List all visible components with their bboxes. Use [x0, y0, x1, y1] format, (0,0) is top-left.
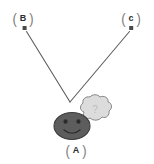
- node-b-label-text: B: [20, 14, 27, 23]
- node-a-label-text: A: [73, 146, 80, 155]
- arrow-a-to-b: [23, 26, 70, 102]
- node-label-a[interactable]: ( A ): [62, 142, 90, 159]
- smiley-face-icon: [54, 113, 90, 140]
- arrow-a-to-c-line: [70, 32, 130, 103]
- node-label-b[interactable]: ( B ): [10, 10, 36, 26]
- face-eye-left-icon: [63, 119, 67, 124]
- node-c-open-bracket: (: [121, 11, 125, 26]
- arrow-a-to-c: [70, 26, 133, 102]
- node-c-close-bracket: ): [137, 11, 141, 26]
- diagram-canvas: ? ( B ) ( c ) ( A ): [0, 0, 154, 164]
- arrow-a-to-c-head-icon: [129, 26, 133, 30]
- arrow-a-to-b-line: [27, 32, 71, 103]
- node-c-label-text: c: [128, 14, 133, 23]
- face-eye-right-icon: [76, 119, 80, 124]
- thought-cloud-question-mark: ?: [92, 104, 98, 115]
- node-b-open-bracket: (: [12, 11, 16, 26]
- face-ellipse: [54, 113, 90, 140]
- node-b-close-bracket: ): [29, 11, 33, 26]
- node-a-close-bracket: ): [82, 143, 86, 158]
- arrow-a-to-b-head-icon: [23, 26, 27, 30]
- node-label-c[interactable]: ( c ): [118, 10, 144, 26]
- node-a-open-bracket: (: [65, 143, 69, 158]
